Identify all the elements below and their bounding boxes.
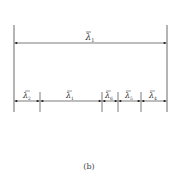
segment-label-lambda1: λ1 <box>65 91 74 101</box>
svg-text:λ6: λ6 <box>104 91 113 101</box>
svg-text:λ4: λ4 <box>148 91 157 101</box>
segment-label-lambda2: λ2 <box>22 91 31 101</box>
dimension-diagram: λ1 λ2 λ1 λ6 λ5 λ4 (b) <box>0 0 181 178</box>
svg-text:λ2: λ2 <box>22 91 31 101</box>
segment-label-lambda6: λ6 <box>104 91 113 101</box>
svg-text:λ1: λ1 <box>65 91 74 101</box>
overall-dimension-label: λ1 <box>85 32 95 43</box>
svg-text:λ5: λ5 <box>124 91 133 101</box>
segment-label-lambda5: λ5 <box>124 91 133 101</box>
segment-label-lambda4: λ4 <box>148 91 157 101</box>
figure-caption: (b) <box>83 162 94 171</box>
